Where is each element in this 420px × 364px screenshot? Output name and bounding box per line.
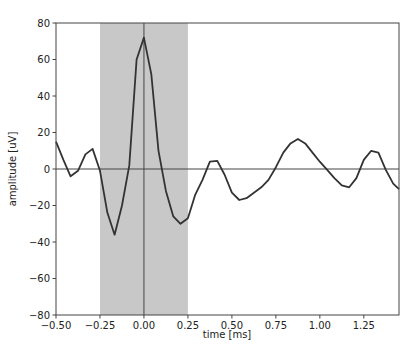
x-tick-label: −0.25: [85, 320, 116, 331]
y-tick-label: −80: [29, 310, 50, 321]
y-tick-label: −20: [29, 200, 50, 211]
y-tick-label: −40: [29, 237, 50, 248]
y-tick-label: 80: [37, 18, 50, 29]
y-tick-label: 20: [37, 127, 50, 138]
x-tick-label: 0.25: [177, 320, 199, 331]
chart-container: −0.50−0.250.000.250.500.751.001.25 −80−6…: [0, 0, 420, 364]
line-chart: −0.50−0.250.000.250.500.751.001.25 −80−6…: [0, 0, 420, 364]
x-axis-label: time [ms]: [203, 329, 252, 340]
y-tick-label: −60: [29, 273, 50, 284]
x-tick-label: 1.00: [309, 320, 331, 331]
y-tick-label: 0: [44, 164, 50, 175]
x-tick-label: 0.00: [133, 320, 155, 331]
x-tick-label: −0.50: [41, 320, 72, 331]
y-axis-label: amplitude [uV]: [7, 132, 18, 207]
y-tick-label: 60: [37, 54, 50, 65]
x-tick-label: 0.75: [265, 320, 287, 331]
y-tick-label: 40: [37, 91, 50, 102]
y-axis-ticks: −80−60−40−20020406080: [29, 18, 56, 321]
x-tick-label: 1.25: [353, 320, 375, 331]
